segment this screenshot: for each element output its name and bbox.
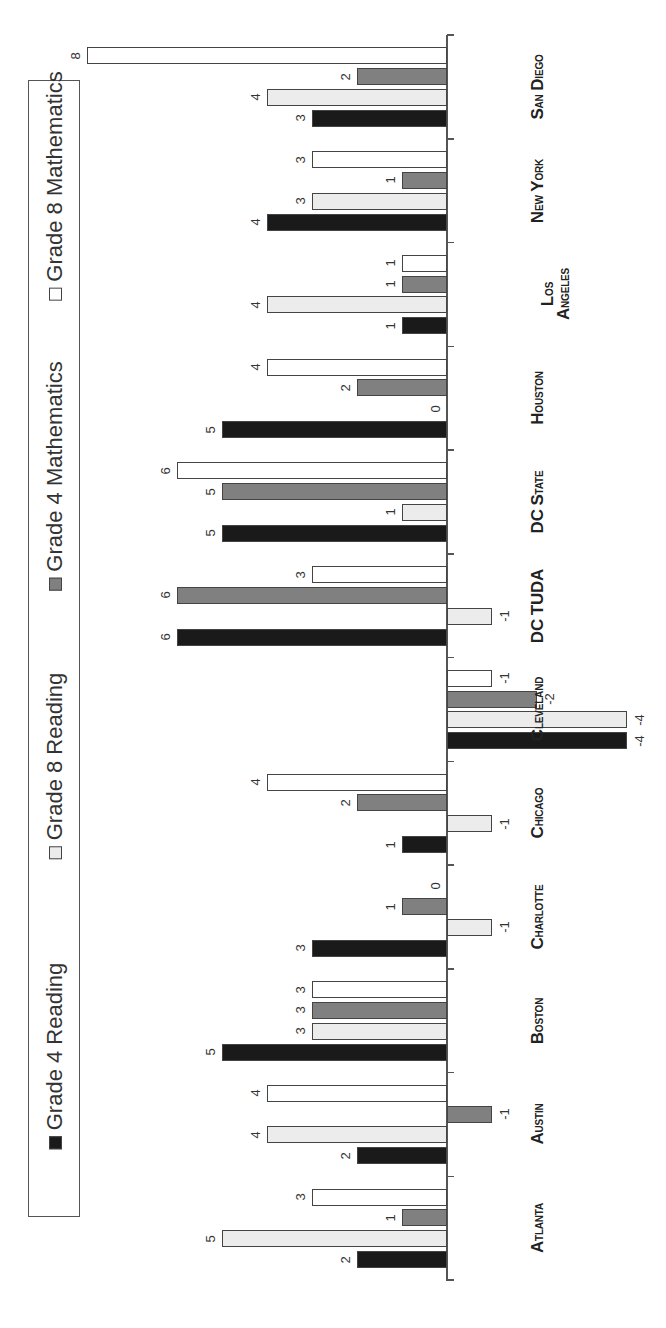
data-label: 5 [203, 1235, 218, 1242]
bar-grade-8-mathematics [312, 981, 447, 998]
bar-grade-4-reading [267, 214, 447, 231]
data-label: 1 [383, 322, 398, 329]
category-label: Cleveland [530, 677, 546, 741]
data-label: 4 [248, 778, 263, 785]
legend-item-grade8-mathematics: Grade 8 Mathematics [29, 41, 81, 331]
axis-tick [447, 346, 454, 348]
legend-label: Grade 8 Reading [42, 673, 68, 841]
data-label: 6 [158, 592, 173, 599]
bar-grade-4-mathematics [402, 276, 447, 293]
bar-grade-8-mathematics [177, 462, 447, 479]
bar-grade-8-reading [267, 89, 447, 106]
bar-grade-4-reading [222, 1044, 447, 1061]
data-label: 1 [383, 841, 398, 848]
data-label: 4 [248, 1131, 263, 1138]
data-label: 5 [203, 426, 218, 433]
bar-grade-8-reading [222, 1230, 447, 1247]
bar-grade-8-mathematics [267, 1085, 447, 1102]
category-label: Charlotte [530, 884, 546, 949]
data-label: 2 [338, 1256, 353, 1263]
data-label: 3 [293, 198, 308, 205]
data-label: 1 [383, 260, 398, 267]
data-label: 3 [293, 156, 308, 163]
legend-swatch-grade8-reading [49, 846, 62, 859]
axis-tick [447, 1279, 454, 1281]
data-label: 5 [203, 530, 218, 537]
data-label: -1 [497, 922, 512, 934]
bar-grade-8-reading [267, 296, 447, 313]
bar-grade-4-mathematics [402, 1209, 447, 1226]
data-label: 0 [428, 882, 443, 889]
bar-grade-4-mathematics [447, 1106, 492, 1123]
bar-grade-8-reading [312, 1023, 447, 1040]
axis-tick [447, 138, 454, 140]
chart-legend: Grade 4 Reading Grade 8 Reading Grade 4 … [28, 80, 80, 1217]
data-label: 3 [293, 1007, 308, 1014]
data-label: 3 [293, 1028, 308, 1035]
bar-grade-8-reading [267, 1126, 447, 1143]
legend-label: Grade 8 Mathematics [42, 71, 68, 281]
category-label: Boston [530, 997, 546, 1043]
data-label: -1 [497, 610, 512, 622]
category-label: DC State [530, 470, 546, 533]
data-label: 1 [383, 903, 398, 910]
data-label: 4 [248, 218, 263, 225]
bar-grade-8-reading [447, 919, 492, 936]
bar-grade-8-mathematics [312, 566, 447, 583]
axis-tick [447, 449, 454, 451]
bar-grade-4-reading [402, 317, 447, 334]
legend-swatch-grade8-mathematics [49, 288, 62, 301]
data-label: 0 [428, 405, 443, 412]
bar-grade-4-reading [312, 110, 447, 127]
bar-grade-4-reading [357, 1147, 447, 1164]
data-label: 6 [158, 467, 173, 474]
category-label: Chicago [530, 788, 546, 839]
bar-grade-8-reading [447, 608, 492, 625]
legend-item-grade8-reading: Grade 8 Reading [29, 641, 81, 891]
bar-grade-8-mathematics [402, 255, 447, 272]
data-label: 2 [338, 73, 353, 80]
data-label: -1 [497, 818, 512, 830]
bar-grade-4-mathematics [357, 794, 447, 811]
axis-tick [447, 864, 454, 866]
category-label: Austin [530, 1104, 546, 1145]
data-label: -1 [497, 673, 512, 685]
bar-grade-8-mathematics [312, 151, 447, 168]
data-label: 1 [383, 281, 398, 288]
bar-grade-4-reading [402, 836, 447, 853]
data-label: 4 [248, 363, 263, 370]
legend-swatch-grade4-reading [49, 1136, 62, 1149]
bar-grade-4-reading [222, 525, 447, 542]
data-label: 1 [383, 509, 398, 516]
data-label: 3 [293, 945, 308, 952]
axis-tick [447, 968, 454, 970]
category-label: Atlanta [530, 1203, 546, 1253]
bar-grade-4-mathematics [402, 172, 447, 189]
data-label: 2 [338, 799, 353, 806]
bar-grade-4-mathematics [447, 691, 537, 708]
data-label: 2 [338, 384, 353, 391]
data-label: 1 [383, 177, 398, 184]
bar-grade-4-mathematics [177, 587, 447, 604]
data-label: -4 [632, 735, 647, 747]
category-label: New York [530, 158, 546, 222]
grouped-bar-chart: 251324-1453333-1101-124-4-4-2-16-1635156… [0, 0, 666, 1328]
bar-grade-8-mathematics [87, 47, 447, 64]
bar-grade-4-reading [222, 421, 447, 438]
data-label: 3 [293, 571, 308, 578]
category-label: DC TUDA [530, 568, 546, 642]
category-label: LosAngeles [540, 268, 572, 320]
data-label: 2 [338, 1152, 353, 1159]
data-label: -4 [632, 714, 647, 726]
axis-tick [447, 761, 454, 763]
bar-grade-4-mathematics [312, 1002, 447, 1019]
legend-item-grade4-reading: Grade 4 Reading [29, 931, 81, 1181]
category-label: Houston [530, 371, 546, 424]
bar-grade-8-reading [402, 504, 447, 521]
bar-grade-4-reading [312, 940, 447, 957]
axis-tick [447, 657, 454, 659]
legend-item-grade4-mathematics: Grade 4 Mathematics [29, 331, 81, 621]
data-label: 4 [248, 301, 263, 308]
bar-grade-4-reading [177, 629, 447, 646]
data-label: 5 [203, 1048, 218, 1055]
